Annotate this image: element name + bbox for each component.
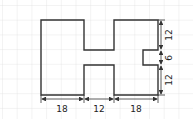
dim-bottom-middle: 12 — [93, 104, 104, 114]
dim-right-top: 12 — [164, 29, 174, 40]
diagram-canvas: 18 12 18 12 6 12 — [0, 0, 193, 119]
dim-bottom-left: 18 — [56, 104, 68, 114]
dim-right-middle: 6 — [164, 55, 174, 61]
dim-bottom-right: 18 — [130, 104, 142, 114]
dim-right-bottom: 12 — [164, 74, 174, 85]
